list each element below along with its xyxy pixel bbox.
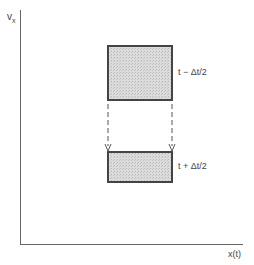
phase-box-after: [108, 152, 172, 182]
y-axis-label-sub: x: [12, 17, 16, 24]
x-axis-label: x(t): [228, 250, 241, 259]
box-after-label: t + Δt/2: [178, 162, 207, 171]
box-before-label: t − Δt/2: [178, 68, 207, 77]
y-axis-label: vx: [7, 12, 16, 24]
phase-space-diagram: [0, 0, 254, 265]
phase-box-before: [108, 46, 172, 100]
